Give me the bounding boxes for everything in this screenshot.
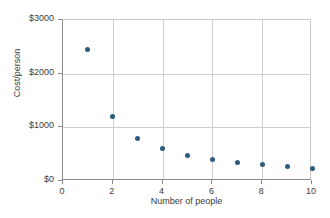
x-tick — [211, 180, 212, 184]
plot-area — [62, 19, 311, 180]
y-tick-label: $0 — [4, 174, 54, 185]
data-point — [85, 47, 90, 52]
data-point — [135, 136, 140, 141]
x-tick — [261, 180, 262, 184]
data-point — [160, 146, 165, 151]
x-axis-title: Number of people — [62, 196, 311, 206]
y-tick — [58, 73, 62, 74]
x-tick — [311, 180, 312, 184]
gridline-vertical — [113, 20, 114, 179]
gridline-horizontal — [63, 127, 310, 128]
gridline-vertical — [212, 20, 213, 179]
data-point — [110, 114, 115, 119]
data-point — [260, 162, 265, 167]
y-tick — [58, 19, 62, 20]
gridline-horizontal — [63, 74, 310, 75]
y-tick — [58, 180, 62, 181]
gridline-vertical — [163, 20, 164, 179]
y-axis-title: Cost/person — [12, 18, 22, 128]
x-tick — [62, 180, 63, 184]
data-point — [210, 157, 215, 162]
data-point — [185, 153, 190, 158]
data-point — [235, 160, 240, 165]
x-tick — [112, 180, 113, 184]
data-point — [310, 166, 315, 171]
data-point — [285, 164, 290, 169]
x-tick — [162, 180, 163, 184]
y-tick — [58, 126, 62, 127]
scatter-chart-figure: 0246810 $0$1000$2000$3000 Number of peop… — [0, 0, 330, 218]
gridline-vertical — [262, 20, 263, 179]
